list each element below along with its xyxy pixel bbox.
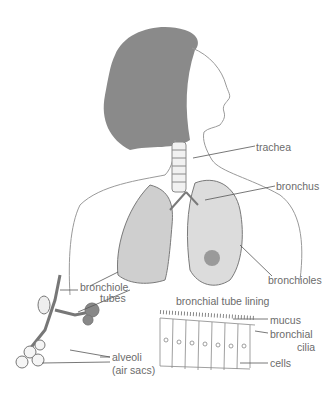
label-alveoli-line2: (air sacs) [112, 364, 155, 376]
left-lung [117, 185, 172, 283]
label-bronchiole-line2: tubes [100, 292, 126, 304]
label-mucus: mucus [270, 314, 301, 326]
label-cilia-line1: bronchial [270, 328, 313, 340]
label-alveoli-line1: alveoli [112, 351, 142, 363]
hair [104, 27, 198, 150]
label-bronchus: bronchus [276, 180, 319, 192]
label-cells: cells [270, 357, 291, 369]
bronchial-lining-illustration [160, 312, 255, 370]
right-lung [187, 180, 242, 285]
label-tube-lining-title: bronchial tube lining [176, 295, 269, 307]
respiratory-diagram: trachea bronchus bronchioles bronchiole … [0, 0, 334, 396]
label-bronchioles: bronchioles [268, 274, 322, 286]
face-profile [192, 48, 230, 160]
label-trachea: trachea [256, 141, 291, 153]
trachea-illustration [172, 142, 186, 192]
label-cilia-line2: cilia [297, 341, 315, 353]
